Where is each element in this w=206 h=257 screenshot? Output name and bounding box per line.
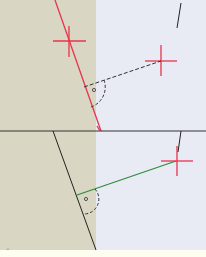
left-region	[0, 0, 96, 250]
construction-diagram	[0, 0, 206, 257]
right-region	[96, 0, 206, 250]
footer-mark: ¨	[6, 248, 10, 256]
diagram-figure: ¨	[0, 0, 206, 257]
